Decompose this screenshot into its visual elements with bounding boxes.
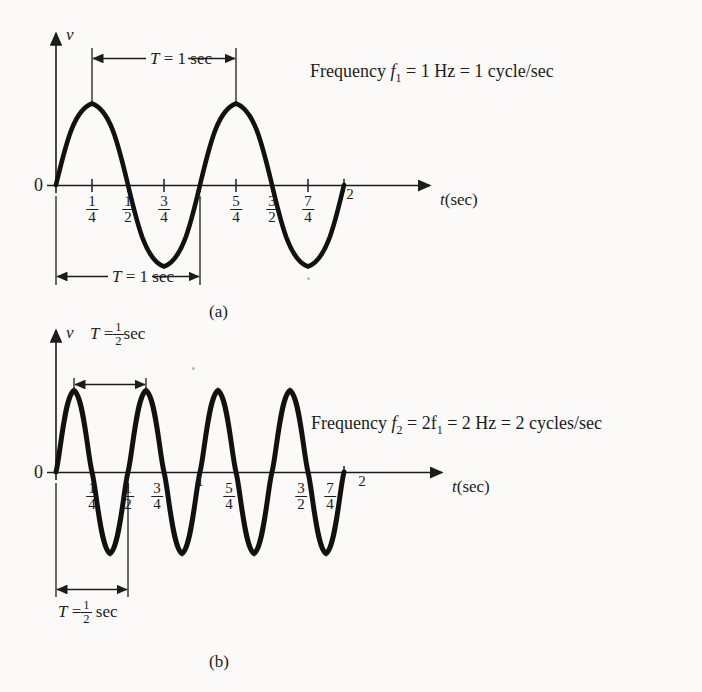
scan-speck xyxy=(192,367,195,370)
tick-denominator: 2 xyxy=(266,210,278,225)
panel-b-y-axis-label: v xyxy=(66,324,74,341)
panel-a-tick-label: 12 xyxy=(122,194,134,226)
tick-numerator: 3 xyxy=(266,194,278,210)
panel-b-x-axis-label-unit: (sec) xyxy=(457,477,490,496)
tick-denominator: 2 xyxy=(122,210,134,225)
panel-a-frequency-annotation: Frequency f1 = 1 Hz = 1 cycle/sec xyxy=(310,62,554,84)
tick-integer: 1 xyxy=(196,474,204,489)
tick-denominator: 4 xyxy=(302,210,314,225)
tick-numerator: 5 xyxy=(223,481,235,497)
panel-a-tick-label: 2 xyxy=(346,194,354,209)
tick-numerator: 1 xyxy=(86,194,98,210)
panel-a-tick-label: 32 xyxy=(266,194,278,226)
panel-b-frequency-prefix: Frequency xyxy=(311,413,387,433)
scan-speck xyxy=(307,277,310,280)
panel-a-tick-label: 1 xyxy=(194,194,202,209)
tick-denominator: 4 xyxy=(86,497,98,512)
tick-denominator: 4 xyxy=(230,210,242,225)
tick-numerator: 3 xyxy=(151,481,163,497)
tick-denominator: 4 xyxy=(86,210,98,225)
tick-denominator: 4 xyxy=(158,210,170,225)
panel-b-tick-label: 14 xyxy=(86,481,98,513)
panel-b-period-bottom-label: T =12 sec xyxy=(58,600,118,627)
panel-b-period-bottom-unit: sec xyxy=(96,602,118,621)
tick-numerator: 1 xyxy=(122,481,134,497)
panel-b-period-top-equals: = xyxy=(104,324,114,343)
panel-a-period-top-label: T = 1 sec xyxy=(150,50,212,67)
panel-a-caption: (a) xyxy=(209,303,228,320)
panel-b-frequency-annotation: Frequency f2 = 2f1 = 2 Hz = 2 cycles/sec xyxy=(311,414,602,436)
tick-denominator: 2 xyxy=(295,497,307,512)
panel-b-origin-label: 0 xyxy=(34,463,43,481)
tick-denominator: 4 xyxy=(151,497,163,512)
panel-a-x-axis-label: t(sec) xyxy=(440,191,478,208)
panel-a-tick-label: 14 xyxy=(86,194,98,226)
panel-b-period-top-symbol: T xyxy=(90,324,99,343)
panel-b-period-bottom-equals: = xyxy=(72,602,82,621)
tick-integer: 2 xyxy=(346,187,354,202)
panel-b-tick-label: 34 xyxy=(151,481,163,513)
panel-b-period-top-label: T =12sec xyxy=(90,322,145,349)
panel-b-tick-label: 54 xyxy=(223,481,235,513)
tick-denominator: 4 xyxy=(324,497,336,512)
panel-b-period-bottom-symbol: T xyxy=(58,602,67,621)
panel-a-frequency-subscript: 1 xyxy=(396,71,402,85)
panel-a-tick-label: 34 xyxy=(158,194,170,226)
figure-page: v 0 t(sec) T = 1 sec T = 1 sec Frequency… xyxy=(0,0,702,692)
panel-b-period-top-unit: sec xyxy=(124,324,146,343)
tick-numerator: 7 xyxy=(302,194,314,210)
panel-b-caption: (b) xyxy=(209,653,229,670)
tick-denominator: 2 xyxy=(122,497,134,512)
panel-a-period-bottom-value: = 1 sec xyxy=(126,267,174,286)
panel-b-frequency-subscript: 2 xyxy=(397,423,403,437)
panel-a-period-top-symbol: T xyxy=(150,49,159,68)
panel-a-period-bottom-label: T = 1 sec xyxy=(112,268,174,285)
tick-denominator: 4 xyxy=(223,497,235,512)
tick-integer: 2 xyxy=(358,474,366,489)
panel-b-frequency-value: = 2f xyxy=(407,413,437,433)
panel-a-y-axis-label: v xyxy=(66,26,74,43)
panel-b-period-top-numerator: 1 xyxy=(113,321,123,335)
tick-integer: 1 xyxy=(194,187,202,202)
panel-b-tick-label: 74 xyxy=(324,481,336,513)
panel-b-axes xyxy=(47,330,442,480)
panel-b-tick-label: 32 xyxy=(295,481,307,513)
panel-b-tick-label: 1 xyxy=(196,481,204,496)
panel-a-frequency-value: = 1 Hz = 1 cycle/sec xyxy=(406,61,554,81)
tick-numerator: 1 xyxy=(122,194,134,210)
panel-b-x-axis-label: t(sec) xyxy=(452,478,490,495)
panel-a-origin-label: 0 xyxy=(34,176,43,194)
panel-b-period-top-dimension xyxy=(74,378,146,392)
panel-b-frequency-subscript-2: 1 xyxy=(437,423,443,437)
panel-a-tick-label: 74 xyxy=(302,194,314,226)
tick-numerator: 1 xyxy=(86,481,98,497)
panel-b-frequency-tail: = 2 Hz = 2 cycles/sec xyxy=(447,413,602,433)
panel-b-period-top-denominator: 2 xyxy=(113,335,123,348)
panel-a-x-axis-label-unit: (sec) xyxy=(445,190,478,209)
tick-numerator: 3 xyxy=(295,481,307,497)
panel-b-tick-label: 2 xyxy=(358,481,366,496)
panel-a-frequency-prefix: Frequency xyxy=(310,61,386,81)
tick-numerator: 7 xyxy=(324,481,336,497)
panel-a-tick-label: 54 xyxy=(230,194,242,226)
tick-numerator: 5 xyxy=(230,194,242,210)
panel-b-period-bottom-numerator: 1 xyxy=(81,599,91,613)
panel-b-period-bottom-denominator: 2 xyxy=(81,613,91,626)
panel-a-period-bottom-symbol: T xyxy=(112,267,121,286)
panel-a-period-top-value: = 1 sec xyxy=(164,49,212,68)
panel-b-tick-label: 12 xyxy=(122,481,134,513)
tick-numerator: 3 xyxy=(158,194,170,210)
